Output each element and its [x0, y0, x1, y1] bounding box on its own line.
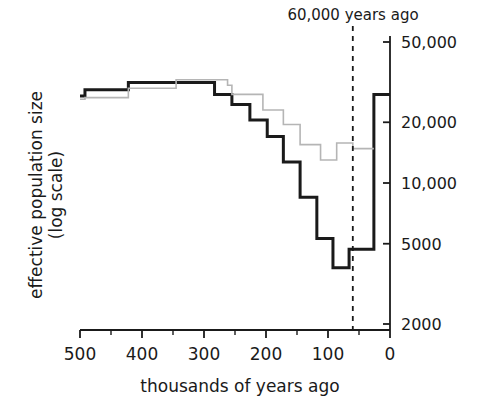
x-tick-label-400: 400	[126, 344, 158, 364]
x-tick-label-0: 0	[385, 344, 396, 364]
y-axis-title-line2: (log scale)	[46, 151, 66, 239]
y-axis-title-line1: effective population size	[26, 91, 46, 299]
y-tick-label-5000: 5000	[401, 235, 442, 254]
x-tick-label-500: 500	[64, 344, 96, 364]
chart-canvas: 50,00020,00010,0005000200050040030020010…	[0, 0, 483, 404]
x-tick-label-300: 300	[188, 344, 220, 364]
y-tick-label-2000: 2000	[401, 315, 442, 334]
x-tick-label-200: 200	[250, 344, 282, 364]
y-tick-label-20000: 20,000	[401, 113, 457, 132]
y-tick-label-50000: 50,000	[401, 33, 457, 52]
x-tick-label-100: 100	[312, 344, 344, 364]
population-size-chart: 50,00020,00010,0005000200050040030020010…	[0, 0, 483, 404]
annotation-label-60000-years-ago: 60,000 years ago	[287, 6, 418, 24]
x-axis-title: thousands of years ago	[140, 376, 339, 396]
y-tick-label-10000: 10,000	[401, 174, 457, 193]
